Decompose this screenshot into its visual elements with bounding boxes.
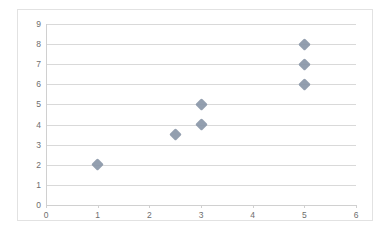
x-tick-mark-6	[356, 205, 357, 208]
y-tick-label-2: 2	[36, 161, 41, 170]
y-tick-label-1: 1	[36, 181, 41, 190]
scatter-points-layer	[46, 24, 356, 205]
scatter-point	[298, 78, 311, 91]
y-tick-label-0: 0	[36, 201, 41, 210]
scatter-point	[195, 118, 208, 131]
x-tick-mark-5	[304, 205, 305, 208]
y-tick-label-4: 4	[36, 120, 41, 129]
scatter-point	[298, 58, 311, 71]
x-tick-mark-0	[46, 205, 47, 208]
y-axis-tick-labels: 0123456789	[18, 24, 41, 205]
scatter-point	[91, 158, 104, 171]
scatter-point	[298, 38, 311, 51]
x-tick-label-6: 6	[354, 211, 359, 220]
x-tick-label-4: 4	[250, 211, 255, 220]
chart-frame: 0123456789 0123456	[17, 9, 373, 221]
y-tick-label-9: 9	[36, 20, 41, 29]
x-tick-label-1: 1	[95, 211, 100, 220]
x-tick-label-3: 3	[199, 211, 204, 220]
x-tick-label-0: 0	[44, 211, 49, 220]
x-tick-mark-3	[201, 205, 202, 208]
x-tick-label-5: 5	[302, 211, 307, 220]
y-tick-label-5: 5	[36, 100, 41, 109]
y-tick-label-6: 6	[36, 80, 41, 89]
scatter-point	[169, 128, 182, 141]
x-tick-label-2: 2	[147, 211, 152, 220]
y-tick-label-8: 8	[36, 40, 41, 49]
x-tick-mark-1	[98, 205, 99, 208]
x-tick-mark-4	[253, 205, 254, 208]
chart-plot-wrapper: 0123456789 0123456	[18, 10, 374, 222]
y-tick-label-7: 7	[36, 60, 41, 69]
y-tick-label-3: 3	[36, 140, 41, 149]
x-tick-mark-2	[149, 205, 150, 208]
scatter-point	[195, 98, 208, 111]
x-axis-tick-labels: 0123456	[46, 211, 356, 225]
